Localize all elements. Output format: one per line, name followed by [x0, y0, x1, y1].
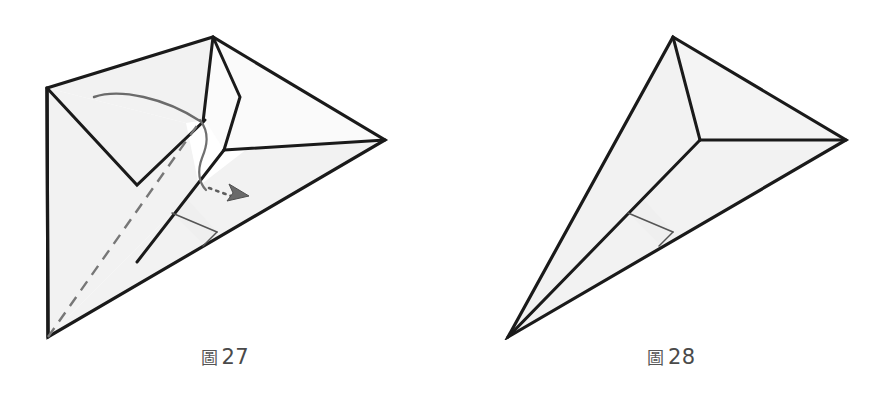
figure-27-block: 圖27 — [0, 0, 450, 399]
figure-28-illustration — [450, 0, 893, 340]
diagram-page: 圖27 圖28 — [0, 0, 893, 399]
figure-28-caption-label: 圖 — [647, 348, 665, 368]
figure-27-caption: 圖27 — [0, 344, 450, 369]
figure-27-illustration — [0, 0, 450, 340]
figure-28-caption: 圖28 — [450, 344, 893, 369]
figure-28-block: 圖28 — [450, 0, 893, 399]
figure-27-caption-label: 圖 — [201, 348, 219, 368]
outline-left-edge — [47, 88, 48, 337]
figure-27-caption-number: 27 — [221, 345, 249, 369]
figure-28-caption-number: 28 — [668, 345, 696, 369]
